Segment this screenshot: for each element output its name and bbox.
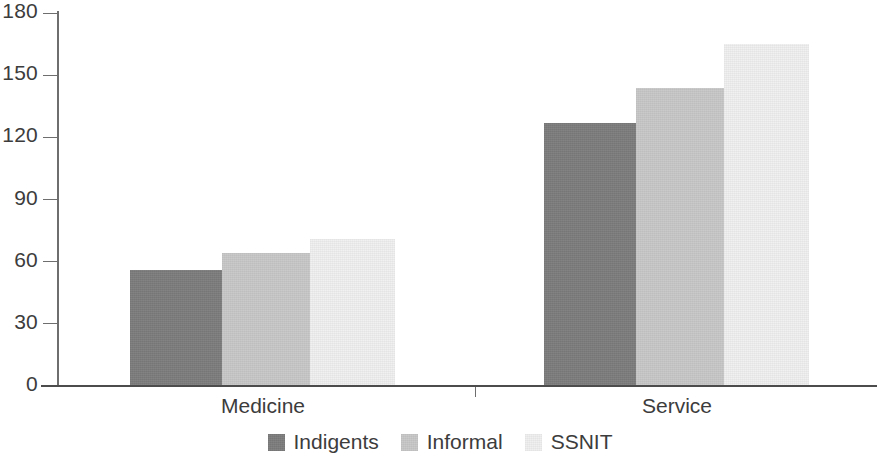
y-axis-tick — [43, 261, 57, 262]
bar-ssnit-service — [724, 44, 809, 386]
chart-legend: IndigentsInformalSSNIT — [0, 430, 880, 454]
legend-swatch-icon — [525, 434, 542, 451]
x-axis-line — [41, 385, 877, 387]
legend-item-ssnit[interactable]: SSNIT — [525, 430, 613, 454]
y-axis-tick — [43, 323, 57, 324]
legend-swatch-texture — [268, 434, 285, 451]
plot-area — [57, 13, 877, 386]
legend-label: SSNIT — [551, 430, 613, 454]
bar-texture — [130, 270, 222, 386]
y-axis-tick — [43, 199, 57, 200]
bar-informal-medicine — [222, 253, 310, 386]
y-axis-tick — [43, 75, 57, 76]
legend-swatch-texture — [525, 434, 542, 451]
bar-texture — [724, 44, 809, 386]
bar-texture — [310, 239, 395, 386]
bar-texture — [544, 123, 636, 386]
legend-swatch-texture — [401, 434, 418, 451]
y-axis-tick-label: 90 — [0, 186, 38, 210]
y-axis-tick — [43, 137, 57, 138]
bar-ssnit-medicine — [310, 239, 395, 386]
y-axis-tick-label: 30 — [0, 310, 38, 334]
bar-indigents-service — [544, 123, 636, 386]
legend-item-informal[interactable]: Informal — [401, 430, 503, 454]
y-axis-tick-label: 60 — [0, 248, 38, 272]
y-axis-tick-label: 0 — [0, 372, 38, 396]
x-axis-label-service: Service — [587, 394, 767, 418]
y-axis-tick — [43, 13, 57, 14]
y-axis-tick-label: 150 — [0, 61, 38, 85]
bar-indigents-medicine — [130, 270, 222, 386]
bar-texture — [636, 88, 724, 386]
x-axis-tick — [475, 387, 476, 397]
y-axis-tick-label: 120 — [0, 123, 38, 147]
legend-swatch-icon — [268, 434, 285, 451]
legend-label: Informal — [427, 430, 503, 454]
legend-label: Indigents — [294, 430, 379, 454]
legend-swatch-icon — [401, 434, 418, 451]
bar-chart: 0306090120150180 MedicineService Indigen… — [0, 0, 880, 460]
bar-informal-service — [636, 88, 724, 386]
legend-item-indigents[interactable]: Indigents — [268, 430, 379, 454]
x-axis-label-medicine: Medicine — [173, 394, 353, 418]
bar-texture — [222, 253, 310, 386]
y-axis-tick-label: 180 — [0, 0, 38, 23]
